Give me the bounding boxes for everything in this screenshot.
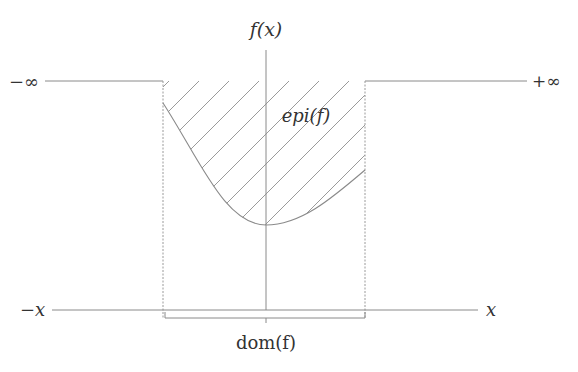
y-axis-label: f(x) [248,18,283,40]
pos-inf-label: +∞ [532,71,560,91]
domain-label: dom(f) [236,332,296,353]
domain-bracket [165,312,365,323]
function-curve [163,103,365,225]
epigraph-hatching [90,60,520,270]
x-axis-label: x [486,299,496,320]
neg-inf-label: −∞ [9,71,39,92]
neg-x-label: −x [20,299,45,320]
epigraph-label: epi(f) [282,105,331,126]
epigraph-diagram: f(x) −∞ +∞ epi(f) −x x dom(f) [0,0,578,372]
